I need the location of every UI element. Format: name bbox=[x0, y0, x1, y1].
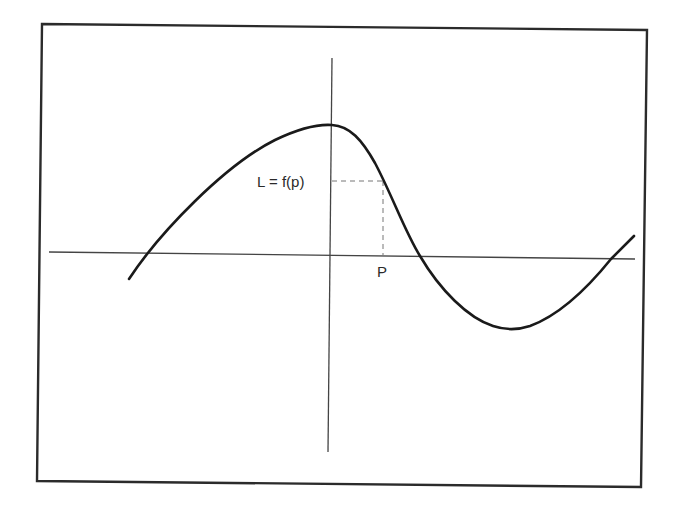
function-value-label: L = f(p) bbox=[257, 174, 304, 189]
point-p-label: P bbox=[377, 264, 387, 279]
x-axis bbox=[49, 252, 635, 259]
function-diagram bbox=[0, 0, 675, 512]
function-curve bbox=[129, 125, 634, 329]
